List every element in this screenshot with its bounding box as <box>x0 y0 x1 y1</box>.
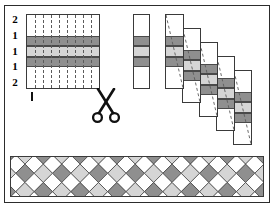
cloth-band <box>166 15 183 36</box>
cloth-band <box>200 64 217 74</box>
cloth-band <box>183 29 200 50</box>
row-label-3: 1 <box>12 61 18 72</box>
row-label-0: 2 <box>12 14 18 25</box>
scissors-icon <box>92 88 120 124</box>
cloth-band <box>183 60 200 70</box>
cloth-band <box>183 50 200 60</box>
cloth-band <box>183 81 200 102</box>
cloth-band <box>234 71 251 92</box>
cloth-band <box>217 78 234 88</box>
row-label-column: 2 1 1 1 2 <box>8 14 22 88</box>
cloth-band <box>234 102 251 112</box>
offset-strip <box>216 56 235 131</box>
weaving-diagram: 2 1 1 1 2 <box>0 0 276 209</box>
cloth-band <box>27 57 99 67</box>
cloth-band <box>166 57 183 67</box>
warp-line <box>83 15 84 88</box>
row-label-4: 2 <box>12 77 18 88</box>
warp-line <box>35 15 36 88</box>
cloth-band <box>166 46 183 56</box>
cloth-band <box>234 123 251 144</box>
cloth-band <box>134 36 149 46</box>
warp-line <box>59 15 60 88</box>
cloth-band <box>134 15 149 36</box>
cloth-band <box>134 67 149 88</box>
cloth-band <box>217 99 234 109</box>
offset-strip <box>233 70 252 145</box>
warp-line <box>91 15 92 88</box>
offset-strip <box>165 14 184 89</box>
cloth-band <box>217 109 234 130</box>
cloth-band <box>200 95 217 116</box>
woven-lattice-result <box>10 156 264 197</box>
cloth-band <box>200 74 217 84</box>
cloth-band <box>200 85 217 95</box>
cloth-band <box>27 67 99 88</box>
cloth-band <box>234 92 251 102</box>
cloth-band <box>134 57 149 67</box>
cloth-band <box>200 43 217 64</box>
cloth-band <box>234 113 251 123</box>
offset-strip-stack <box>165 14 250 132</box>
row-label-2: 1 <box>12 46 18 57</box>
cloth-band <box>27 15 99 36</box>
cloth-band <box>217 88 234 98</box>
single-cut-strip <box>133 14 150 89</box>
width-tick-mark <box>31 92 33 101</box>
warp-line <box>51 15 52 88</box>
cloth-band <box>134 46 149 56</box>
cloth-band <box>183 71 200 81</box>
cloth-band <box>27 46 99 56</box>
row-label-1: 1 <box>12 30 18 41</box>
striped-cloth <box>26 14 100 89</box>
cloth-band <box>166 36 183 46</box>
warp-line <box>67 15 68 88</box>
cloth-band <box>27 36 99 46</box>
warp-line <box>43 15 44 88</box>
cloth-band <box>217 57 234 78</box>
cloth-band <box>166 67 183 88</box>
warp-line <box>75 15 76 88</box>
offset-strip <box>182 28 201 103</box>
offset-strip <box>199 42 218 117</box>
